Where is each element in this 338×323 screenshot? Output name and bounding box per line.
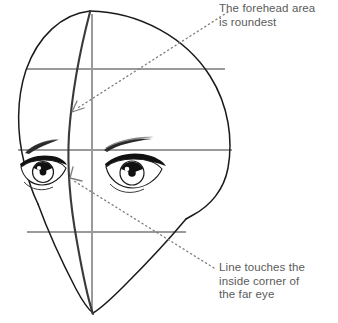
callout-forehead-text: The forehead area is roundest — [219, 2, 337, 29]
illustration-canvas: The forehead area is roundest Line touch… — [0, 0, 338, 323]
eyebrows — [25, 137, 154, 154]
left-eye — [20, 155, 67, 189]
right-eye — [105, 153, 166, 192]
leader-line-forehead — [72, 12, 228, 112]
horizontal-guidelines — [18, 69, 232, 232]
left-eyebrow — [25, 140, 58, 154]
callout-far-eye-text: Line touches the inside corner of the fa… — [219, 261, 337, 302]
facial-centerline — [68, 12, 93, 314]
